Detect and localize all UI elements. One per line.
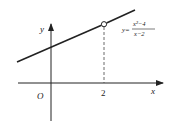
formula-prefix: y= <box>121 26 130 34</box>
x-tick-label-2: 2 <box>101 88 106 98</box>
function-line-continued <box>107 10 136 23</box>
function-formula: y= x²−4 x−2 <box>121 20 155 37</box>
formula-denominator: x−2 <box>133 30 145 37</box>
function-line <box>17 25 102 62</box>
formula-numerator: x²−4 <box>132 20 146 27</box>
hole-marker <box>101 22 106 27</box>
origin-label: O <box>37 91 44 101</box>
y-axis-label: y <box>39 24 44 34</box>
x-axis-label: x <box>150 86 155 96</box>
function-graph: y O 2 x y= x²−4 x−2 <box>0 0 169 128</box>
